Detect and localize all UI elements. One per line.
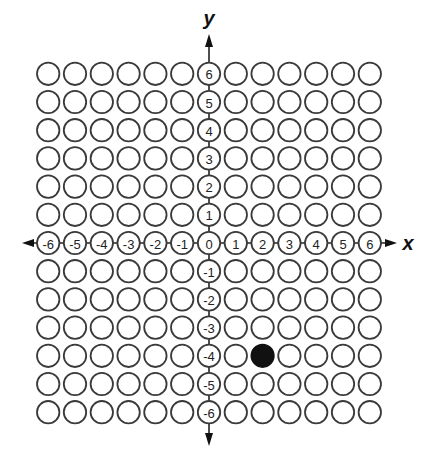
grid-point bbox=[37, 175, 59, 197]
grid-point bbox=[91, 373, 113, 395]
grid-point bbox=[117, 316, 139, 338]
grid-point bbox=[251, 119, 273, 141]
grid-point bbox=[37, 345, 59, 367]
x-tick-label: -3 bbox=[123, 237, 135, 252]
grid-point bbox=[117, 373, 139, 395]
grid-point bbox=[278, 345, 300, 367]
grid-point bbox=[64, 63, 86, 85]
grid-point bbox=[225, 91, 247, 113]
y-tick-label: -4 bbox=[203, 349, 215, 364]
grid-point bbox=[305, 175, 327, 197]
grid-point bbox=[278, 91, 300, 113]
grid-point bbox=[171, 401, 193, 423]
grid-point bbox=[37, 401, 59, 423]
grid-point bbox=[305, 316, 327, 338]
grid-point bbox=[171, 204, 193, 226]
grid-point bbox=[305, 147, 327, 169]
x-axis-left-arrow-icon bbox=[22, 239, 34, 247]
grid-point bbox=[278, 260, 300, 282]
grid-point bbox=[91, 147, 113, 169]
grid-point bbox=[64, 401, 86, 423]
grid-point bbox=[37, 91, 59, 113]
grid-point bbox=[225, 345, 247, 367]
grid-point bbox=[359, 63, 381, 85]
grid-point bbox=[332, 260, 354, 282]
grid-point bbox=[225, 63, 247, 85]
y-tick-label: 4 bbox=[205, 124, 212, 139]
grid-point bbox=[278, 316, 300, 338]
grid-point bbox=[359, 119, 381, 141]
grid-point bbox=[117, 147, 139, 169]
grid-point bbox=[117, 91, 139, 113]
grid-point bbox=[37, 204, 59, 226]
grid-point bbox=[278, 401, 300, 423]
grid-point bbox=[251, 260, 273, 282]
grid-point bbox=[225, 260, 247, 282]
grid-point bbox=[225, 316, 247, 338]
y-axis-up-arrow-icon bbox=[205, 34, 213, 47]
y-tick-label: 3 bbox=[205, 152, 212, 167]
grid-point bbox=[332, 147, 354, 169]
grid-point bbox=[64, 373, 86, 395]
grid-point bbox=[91, 119, 113, 141]
y-tick-label: 5 bbox=[205, 96, 212, 111]
grid-point bbox=[37, 288, 59, 310]
grid-point bbox=[64, 316, 86, 338]
grid-point bbox=[278, 373, 300, 395]
grid-point bbox=[171, 119, 193, 141]
grid-point bbox=[117, 63, 139, 85]
grid-point bbox=[278, 63, 300, 85]
y-tick-label: 1 bbox=[205, 208, 212, 223]
grid-point bbox=[278, 288, 300, 310]
grid-point bbox=[359, 175, 381, 197]
grid-point bbox=[171, 288, 193, 310]
grid-point bbox=[359, 401, 381, 423]
grid-point bbox=[305, 373, 327, 395]
grid-point bbox=[91, 63, 113, 85]
grid-point bbox=[359, 147, 381, 169]
grid-point bbox=[305, 260, 327, 282]
grid-point bbox=[278, 175, 300, 197]
grid-point bbox=[117, 345, 139, 367]
y-tick-label: 2 bbox=[205, 180, 212, 195]
grid-point bbox=[64, 147, 86, 169]
grid-point bbox=[144, 119, 166, 141]
grid-point bbox=[359, 260, 381, 282]
grid-point bbox=[251, 204, 273, 226]
grid-point bbox=[225, 204, 247, 226]
grid-point bbox=[91, 288, 113, 310]
grid-point bbox=[225, 373, 247, 395]
grid-point bbox=[225, 175, 247, 197]
coordinate-plane: 654321-6-5-4-3-2-10123456-1-2-3-4-5-6 x … bbox=[0, 0, 429, 449]
grid-point bbox=[225, 147, 247, 169]
grid-point bbox=[91, 260, 113, 282]
grid-point bbox=[332, 345, 354, 367]
grid-point bbox=[332, 63, 354, 85]
grid-point bbox=[91, 316, 113, 338]
grid-point bbox=[37, 373, 59, 395]
grid-point bbox=[64, 345, 86, 367]
y-axis-label: y bbox=[202, 7, 215, 29]
grid-point bbox=[251, 373, 273, 395]
grid-point bbox=[37, 260, 59, 282]
x-tick-label: -5 bbox=[69, 237, 81, 252]
grid-point bbox=[37, 316, 59, 338]
grid-point bbox=[64, 119, 86, 141]
grid-point bbox=[225, 288, 247, 310]
grid-point bbox=[359, 91, 381, 113]
grid-point bbox=[225, 119, 247, 141]
grid-point bbox=[37, 63, 59, 85]
x-tick-label: 1 bbox=[232, 237, 239, 252]
y-tick-label: -1 bbox=[203, 265, 215, 280]
grid-point bbox=[171, 63, 193, 85]
grid-point bbox=[171, 345, 193, 367]
grid-point bbox=[332, 401, 354, 423]
grid-point bbox=[117, 260, 139, 282]
grid-point bbox=[332, 316, 354, 338]
grid-point bbox=[305, 288, 327, 310]
grid-point bbox=[278, 119, 300, 141]
grid-point bbox=[171, 316, 193, 338]
grid-point bbox=[251, 91, 273, 113]
grid-point bbox=[332, 204, 354, 226]
grid-point bbox=[144, 175, 166, 197]
